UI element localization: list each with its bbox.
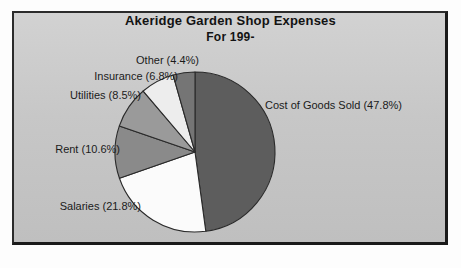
slice-label-salaries: Salaries (21.8%) [60,200,141,212]
chart-canvas: Akeridge Garden Shop Expenses For 199- O… [0,0,461,268]
slice-label-other: Other (4.4%) [136,54,199,66]
slice-label-insurance: Insurance (6.8%) [94,70,178,82]
slice-label-cost-of-goods-sold: Cost of Goods Sold (47.8%) [265,99,402,111]
slice-label-rent: Rent (10.6%) [55,143,120,155]
pie-chart [0,0,461,268]
pie-slice-cost-of-goods-sold [195,72,275,231]
slice-label-utilities: Utilities (8.5%) [70,89,141,101]
